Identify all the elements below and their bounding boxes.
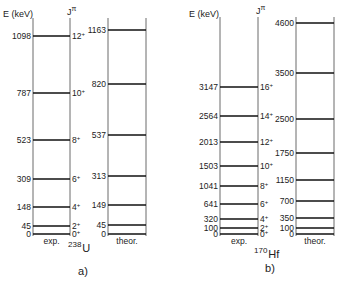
level-scheme-figure: 00+452+1484+3096+5238+78710+109812+04514… [0, 0, 340, 285]
exp-column-label: exp. [231, 236, 247, 246]
exp-energy-label: 641 [204, 199, 218, 209]
nucleus-label: 170Hf [254, 246, 280, 260]
spin-parity-label: 8+ [72, 135, 81, 145]
theor-energy-label: 350 [280, 213, 294, 223]
exp-energy-label: 1503 [199, 161, 218, 171]
energy-axis-label: E (keV) [189, 9, 219, 19]
theor-energy-label: 0 [101, 229, 106, 239]
theor-energy-label: 1163 [88, 25, 107, 35]
level-scheme-svg: 00+452+1484+3096+5238+78710+109812+04514… [0, 0, 340, 285]
spin-parity-label: 10+ [260, 161, 273, 171]
exp-energy-label: 3147 [199, 82, 218, 92]
spin-parity-label: 4+ [72, 202, 81, 212]
theor-energy-label: 45 [97, 220, 107, 230]
exp-energy-label: 1041 [199, 181, 218, 191]
nucleus-label: 238U [68, 240, 90, 254]
exp-energy-label: 523 [17, 135, 31, 145]
spin-parity-label: 16+ [260, 82, 273, 92]
exp-energy-label: 45 [22, 221, 32, 231]
theor-energy-label: 149 [92, 200, 106, 210]
spin-parity-label: 6+ [72, 174, 81, 184]
spin-parity-label: 8+ [260, 181, 269, 191]
energy-axis-label: E (keV) [3, 9, 33, 19]
exp-column-label: exp. [43, 236, 59, 246]
exp-energy-label: 2013 [199, 137, 218, 147]
theor-energy-label: 1750 [275, 148, 294, 158]
spin-parity-label: 10+ [72, 88, 85, 98]
theor-energy-label: 4600 [275, 18, 294, 28]
exp-energy-label: 309 [17, 174, 31, 184]
theor-energy-label: 2500 [275, 114, 294, 124]
exp-energy-label: 2564 [199, 111, 218, 121]
spin-parity-label: 12+ [72, 31, 85, 41]
spin-parity-header: Jπ [256, 4, 266, 16]
theor-energy-label: 820 [92, 79, 106, 89]
exp-energy-label: 100 [204, 223, 218, 233]
theor-energy-label: 1150 [276, 175, 295, 185]
exp-energy-label: 148 [17, 202, 31, 212]
spin-parity-label: 14+ [260, 111, 273, 121]
spin-parity-label: 12+ [260, 137, 273, 147]
theor-column-label: theor. [304, 236, 325, 246]
theor-energy-label: 700 [280, 196, 294, 206]
panel-caption: a) [78, 265, 88, 277]
theor-energy-label: 537 [92, 130, 106, 140]
exp-energy-label: 1098 [12, 31, 31, 41]
theor-column-label: theor. [116, 236, 137, 246]
theor-energy-label: 313 [92, 171, 106, 181]
exp-energy-label: 320 [204, 214, 218, 224]
theor-energy-label: 100 [280, 223, 294, 233]
panel-caption: b) [265, 262, 275, 274]
exp-energy-label: 787 [17, 88, 31, 98]
spin-parity-label: 6+ [260, 199, 269, 209]
theor-energy-label: 3500 [275, 68, 294, 78]
spin-parity-header: Jπ [67, 5, 77, 17]
